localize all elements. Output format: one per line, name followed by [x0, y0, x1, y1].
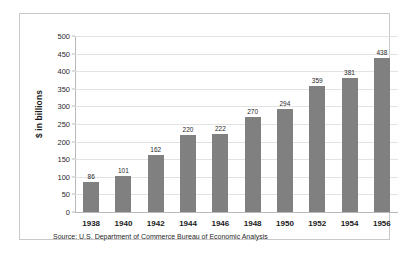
bar-value-label: 222 — [215, 125, 226, 132]
bar — [374, 58, 390, 212]
bar-value-label: 438 — [376, 49, 387, 56]
bar-value-label: 270 — [247, 108, 258, 115]
bar-value-label: 359 — [312, 77, 323, 84]
x-tick-label: 1956 — [373, 219, 391, 228]
bar — [245, 117, 261, 212]
bar-group: 3591952 — [301, 36, 333, 212]
bar-value-label: 101 — [118, 167, 129, 174]
x-tick-label: 1954 — [341, 219, 359, 228]
bar-group: 4381956 — [366, 36, 398, 212]
y-axis-title: $ in billions — [34, 69, 44, 159]
bar-value-label: 86 — [88, 173, 95, 180]
y-tick-label: 250 — [57, 120, 70, 129]
bar-group: 2941950 — [269, 36, 301, 212]
x-tick-label: 1952 — [308, 219, 326, 228]
plot-area: 050100150200250300350400450500 861938101… — [75, 36, 398, 212]
bar — [342, 78, 358, 212]
bar-value-label: 381 — [344, 69, 355, 76]
y-tick-label: 350 — [57, 84, 70, 93]
bar-group: 2221946 — [204, 36, 236, 212]
bar — [277, 109, 293, 212]
bar-group: 2201944 — [172, 36, 204, 212]
y-tick-label: 450 — [57, 49, 70, 58]
x-tick-label: 1938 — [82, 219, 100, 228]
bar — [180, 135, 196, 212]
x-tick-label: 1944 — [179, 219, 197, 228]
bar-value-label: 294 — [280, 100, 291, 107]
bar — [148, 155, 164, 212]
chart-figure: $ in billions 05010015020025030035040045… — [0, 0, 408, 256]
y-tick-label: 50 — [62, 190, 70, 199]
y-tick-label: 150 — [57, 155, 70, 164]
bar-group: 861938 — [75, 36, 107, 212]
x-tick-label: 1950 — [276, 219, 294, 228]
bar — [212, 134, 228, 212]
bar-group: 3811954 — [333, 36, 365, 212]
x-tick-label: 1942 — [147, 219, 165, 228]
x-tick-label: 1948 — [244, 219, 262, 228]
y-tick-label: 0 — [66, 208, 70, 217]
bar — [115, 176, 131, 212]
y-tick-label: 300 — [57, 102, 70, 111]
bar-group: 1011940 — [107, 36, 139, 212]
bar — [83, 182, 99, 212]
bar-group: 1621942 — [140, 36, 172, 212]
gridline — [75, 212, 398, 213]
y-tick-label: 500 — [57, 32, 70, 41]
x-tick-label: 1940 — [115, 219, 133, 228]
y-tick-label: 200 — [57, 137, 70, 146]
bar-value-label: 220 — [183, 126, 194, 133]
y-tick-label: 400 — [57, 67, 70, 76]
source-note: Source: U.S. Department of Commerce Bure… — [53, 233, 268, 240]
bar — [309, 86, 325, 212]
x-tick-label: 1946 — [211, 219, 229, 228]
chart-frame: $ in billions 05010015020025030035040045… — [19, 13, 390, 240]
bar-group: 2701948 — [237, 36, 269, 212]
y-tick-label: 100 — [57, 172, 70, 181]
bar-value-label: 162 — [150, 146, 161, 153]
